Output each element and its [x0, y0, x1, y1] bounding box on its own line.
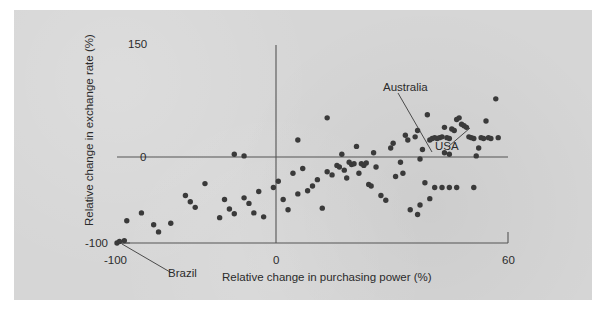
data-point: [232, 211, 237, 216]
data-point: [151, 222, 156, 227]
data-point: [122, 238, 127, 243]
data-point: [285, 207, 290, 212]
figure-container: 150 0 -100 -100 0 60 Relative change in …: [0, 0, 610, 319]
data-point: [476, 145, 481, 150]
data-point: [439, 185, 444, 190]
data-point: [324, 115, 329, 120]
annotation-usa: USA: [435, 141, 459, 153]
data-point: [168, 221, 173, 226]
data-point: [427, 196, 432, 201]
data-point: [295, 191, 300, 196]
data-point: [398, 160, 403, 165]
data-point: [261, 214, 266, 219]
data-point: [383, 198, 388, 203]
australia-leader-line: [398, 93, 432, 152]
data-point: [315, 177, 320, 182]
data-point: [415, 212, 420, 217]
data-point: [371, 150, 376, 155]
data-point: [217, 215, 222, 220]
data-point: [447, 185, 452, 190]
data-point: [276, 179, 281, 184]
x-axis-title: Relative change in purchasing power (%): [222, 272, 432, 284]
data-point: [337, 164, 342, 169]
data-point: [342, 167, 347, 172]
data-point: [474, 153, 479, 158]
y-tick-150: 150: [128, 39, 147, 51]
brazil-leader-line: [122, 244, 170, 272]
data-point: [256, 189, 261, 194]
data-point: [351, 161, 356, 166]
data-point: [456, 115, 461, 120]
data-point: [422, 180, 427, 185]
data-point: [488, 136, 493, 141]
data-point: [241, 153, 246, 158]
data-point: [193, 205, 198, 210]
data-point: [354, 144, 359, 149]
data-point: [496, 135, 501, 140]
data-point: [339, 152, 344, 157]
data-point: [483, 118, 488, 123]
data-point: [439, 134, 444, 139]
data-point: [368, 183, 373, 188]
x-tick-60: 60: [502, 255, 515, 267]
data-point: [464, 125, 469, 130]
annotation-australia: Australia: [383, 82, 428, 94]
data-point: [356, 171, 361, 176]
data-point: [300, 166, 305, 171]
data-point: [232, 152, 237, 157]
data-point: [481, 136, 486, 141]
data-point: [227, 206, 232, 211]
data-point: [417, 202, 422, 207]
data-point: [139, 210, 144, 215]
data-point: [222, 197, 227, 202]
data-point: [412, 134, 417, 139]
data-point: [408, 207, 413, 212]
data-point: [471, 136, 476, 141]
data-point: [432, 185, 437, 190]
data-point: [425, 112, 430, 117]
data-point: [156, 229, 161, 234]
data-point: [310, 183, 315, 188]
data-point: [202, 181, 207, 186]
data-point: [280, 197, 285, 202]
data-point: [417, 156, 422, 161]
data-point: [393, 174, 398, 179]
y-tick-neg100: -100: [85, 238, 108, 250]
data-point: [390, 141, 395, 146]
data-point: [251, 210, 256, 215]
data-point: [305, 188, 310, 193]
data-point: [124, 218, 129, 223]
data-point: [290, 171, 295, 176]
x-tick-neg100: -100: [104, 255, 127, 267]
data-point: [295, 137, 300, 142]
data-point: [405, 137, 410, 142]
data-point: [471, 185, 476, 190]
data-point: [324, 169, 329, 174]
data-point: [246, 201, 251, 206]
data-point: [271, 185, 276, 190]
data-point: [188, 199, 193, 204]
data-point-group: [114, 96, 501, 246]
data-point: [378, 193, 383, 198]
data-point: [364, 160, 369, 165]
y-axis-title: Relative change in exchange rate (%): [84, 34, 96, 226]
data-point: [442, 125, 447, 130]
data-point: [183, 193, 188, 198]
data-point: [373, 164, 378, 169]
data-point: [329, 172, 334, 177]
data-point: [420, 147, 425, 152]
data-point: [454, 185, 459, 190]
data-point: [241, 195, 246, 200]
x-tick-0: 0: [273, 255, 279, 267]
data-point: [403, 133, 408, 138]
data-point: [344, 175, 349, 180]
data-point: [320, 205, 325, 210]
data-point: [452, 128, 457, 133]
data-point: [388, 145, 393, 150]
data-point: [117, 239, 122, 244]
data-point: [415, 128, 420, 133]
data-point: [400, 171, 405, 176]
annotation-brazil: Brazil: [168, 268, 197, 280]
data-point: [493, 96, 498, 101]
y-tick-0: 0: [140, 152, 146, 164]
